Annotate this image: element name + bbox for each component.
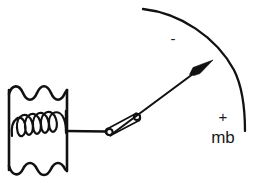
diagram-canvas: - + mb — [0, 0, 254, 186]
scale-unit-label: mb — [211, 128, 235, 147]
internal-spring — [12, 112, 66, 136]
scale-negative-label: - — [171, 30, 176, 47]
barometer-diagram: - + mb — [0, 0, 254, 186]
pointer-needle — [112, 60, 213, 134]
spring-coil-path — [12, 112, 66, 136]
linkage-lower-edge — [111, 121, 140, 136]
aneroid-capsule — [9, 86, 67, 175]
scale-positive-label: + — [219, 108, 228, 125]
pointer-shaft — [112, 68, 201, 134]
capsule-bottom-corrugation — [9, 163, 67, 175]
capsule-top-corrugation — [9, 86, 67, 100]
pointer-arrowhead — [190, 60, 214, 76]
connector-rod — [66, 131, 106, 132]
